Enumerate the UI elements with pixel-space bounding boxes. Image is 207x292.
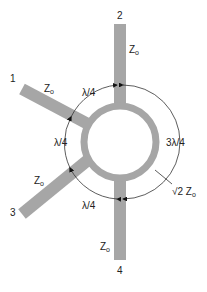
port-4-line [114, 178, 126, 260]
port-2-impedance: Zo [129, 44, 139, 56]
port-3-impedance: Zo [34, 175, 44, 187]
ring-impedance-label: √2 Zo [172, 186, 196, 198]
arc-label-p3-p4: λ/4 [82, 200, 96, 211]
arc-label-p1-p3: λ/4 [54, 137, 68, 148]
port-1-number: 1 [10, 73, 16, 84]
arc-label-p2-p4: 3λ/4 [166, 137, 185, 148]
rat-race-coupler-diagram: 1 2 3 4 Zo Zo Zo Zo λ/4 λ/4 λ/4 3λ/4 √2 … [0, 0, 207, 292]
port-4-impedance: Zo [100, 241, 110, 253]
port-4-number: 4 [117, 265, 123, 276]
ring [84, 106, 156, 178]
port-3-number: 3 [10, 207, 16, 218]
port-2-line [114, 24, 126, 106]
port-1-impedance: Zo [44, 83, 54, 95]
arc-label-p1-p2: λ/4 [82, 87, 96, 98]
port-2-number: 2 [117, 10, 123, 21]
port-3-line [22, 160, 88, 214]
port-1-line [22, 89, 88, 124]
port-lines [22, 24, 126, 260]
